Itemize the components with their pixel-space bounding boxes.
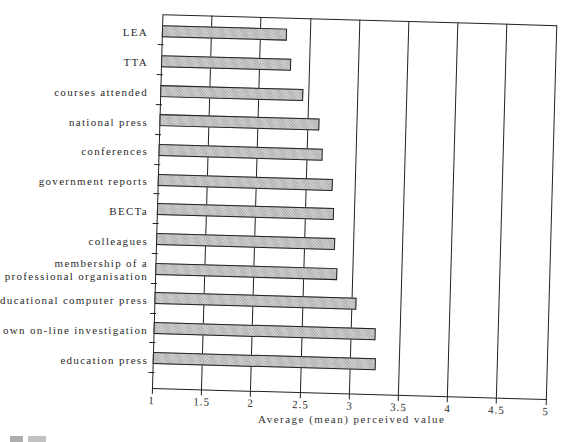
plot-area: 1 1.5 2 2.5 3 3.5 4 4.5 5 xyxy=(0,0,570,442)
y-tick xyxy=(157,74,163,75)
y-tick xyxy=(149,342,155,343)
x-axis-title: Average (mean) perceived value xyxy=(258,413,445,425)
x-tick-label: 3.5 xyxy=(390,401,407,413)
bar-chart: LEA TTA courses attended national press … xyxy=(0,0,570,442)
x-tick-label: 4.5 xyxy=(488,403,505,415)
figure-caption-fragment xyxy=(10,436,70,442)
y-tick xyxy=(151,283,157,284)
x-tick-label: 1 xyxy=(148,394,155,406)
y-tick xyxy=(153,193,159,194)
y-tick xyxy=(153,223,159,224)
x-tick-label: 3 xyxy=(346,399,353,411)
x-tick-label: 2.5 xyxy=(292,398,309,410)
y-tick xyxy=(150,313,156,314)
y-tick xyxy=(148,372,154,373)
x-tick-label: 1.5 xyxy=(193,395,210,407)
y-tick xyxy=(158,44,164,45)
x-tick-label: 5 xyxy=(542,405,549,417)
x-tick-label: 2 xyxy=(247,397,254,409)
y-tick xyxy=(154,164,160,165)
y-tick xyxy=(156,104,162,105)
y-tick xyxy=(152,253,158,254)
y-tick xyxy=(155,134,161,135)
